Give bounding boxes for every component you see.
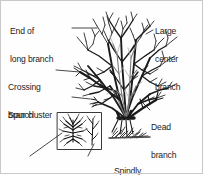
leader-spur-cluster bbox=[72, 97, 90, 99]
label-spur-cluster: Spur cluster bbox=[8, 92, 52, 139]
spur-cluster-on-shrub bbox=[91, 97, 98, 107]
spindly-branch-growth bbox=[110, 127, 148, 138]
diagram-canvas: End of long branch Large center branch C… bbox=[0, 0, 204, 175]
label-line: End of bbox=[10, 27, 53, 36]
label-line: Crossing bbox=[8, 83, 41, 92]
label-line: center bbox=[155, 55, 180, 64]
label-line: branch bbox=[155, 83, 180, 92]
label-line: branch bbox=[151, 151, 176, 160]
label-line: Spur cluster bbox=[8, 111, 52, 120]
label-before: Before bbox=[13, 158, 37, 175]
leader-large-center-branch bbox=[146, 30, 153, 34]
label-line: Large bbox=[155, 27, 180, 36]
label-line: Spindly bbox=[114, 167, 141, 175]
label-line: Dead bbox=[151, 123, 176, 132]
spindly-branch-ground bbox=[109, 137, 150, 138]
label-after: After bbox=[80, 158, 97, 175]
leader-crossing-branch bbox=[56, 70, 80, 72]
label-dead-branch: Dead branch bbox=[151, 104, 176, 175]
label-large-center-branch: Large center branch bbox=[155, 8, 180, 111]
label-spindly-branch: Spindly branch bbox=[114, 148, 141, 175]
